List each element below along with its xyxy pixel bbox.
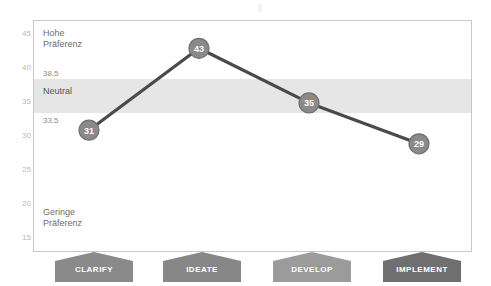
phase-label-ideate: IDEATE — [163, 265, 241, 274]
y-tick-35: 35 — [7, 98, 31, 106]
y-axis: 45 40 35 30 25 20 15 — [5, 20, 31, 252]
data-point-label: 31 — [84, 126, 94, 136]
phase-banner-clarify[interactable]: CLARIFY — [55, 252, 133, 282]
marker-group: 31433529 — [79, 38, 429, 154]
data-point-label: 29 — [414, 139, 424, 149]
phase-banner-ideate[interactable]: IDEATE — [163, 252, 241, 282]
y-tick-15: 15 — [7, 234, 31, 242]
preference-line-chart: 45 40 35 30 25 20 15 HohePräferenz 38.5 … — [0, 0, 491, 286]
y-tick-45: 45 — [7, 30, 31, 38]
phase-banner-implement[interactable]: IMPLEMENT — [383, 252, 461, 282]
phase-banner-develop[interactable]: DEVELOP — [273, 252, 351, 282]
data-point-label: 43 — [194, 44, 204, 54]
y-tick-25: 25 — [7, 166, 31, 174]
scan-artifact — [258, 4, 262, 12]
data-line-layer: 31433529 — [34, 21, 473, 253]
y-tick-30: 30 — [7, 132, 31, 140]
y-tick-20: 20 — [7, 200, 31, 208]
plot-area: HohePräferenz 38.5 Neutral 33.5 GeringeP… — [33, 20, 472, 252]
phase-banner-row: CLARIFY IDEATE DEVELOP IMPLEMENT — [0, 252, 491, 286]
series-polyline — [89, 48, 419, 144]
data-point-label: 35 — [304, 98, 314, 108]
y-tick-40: 40 — [7, 64, 31, 72]
phase-label-implement: IMPLEMENT — [383, 265, 461, 274]
phase-label-clarify: CLARIFY — [55, 265, 133, 274]
phase-label-develop: DEVELOP — [273, 265, 351, 274]
